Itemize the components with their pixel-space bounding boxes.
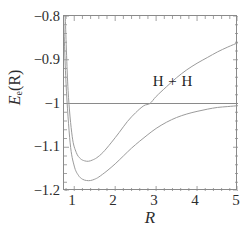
x-axis-title: R [63,208,237,228]
y-axis-title-subscript: e [13,91,24,95]
plot-area: H + H [63,15,237,190]
x-tick-label-3: 4 [183,192,207,209]
x-tick-label-2: 3 [142,192,166,209]
chart-figure: −0.8 −0.9 −1 −1.1 −1.2 Ee(R) 1 2 3 4 5 R… [0,0,248,234]
y-axis-title: Ee(R) [6,41,25,133]
x-tick-label-4: 5 [224,192,248,209]
y-axis-title-base: E [6,95,23,105]
x-tick-label-0: 1 [60,192,84,209]
x-tick-label-1: 2 [101,192,125,209]
series-lower-curve [64,16,238,181]
y-axis-title-arg: (R) [6,70,23,91]
plot-canvas [64,16,238,191]
y-tick-label-3: −1.1 [0,138,60,155]
y-tick-label-0: −0.8 [0,8,60,25]
series-upper-curve [65,16,238,161]
annotation-h-plus-h: H + H [153,73,193,90]
y-tick-label-4: −1.2 [0,182,60,199]
